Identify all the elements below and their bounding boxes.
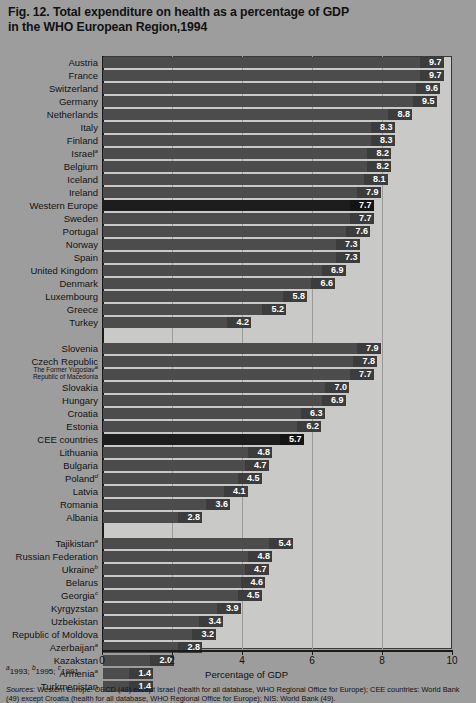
- bar-value: 9.7: [420, 57, 444, 68]
- bar-value: 7.0: [325, 382, 349, 393]
- bar-value: 6.9: [322, 395, 346, 406]
- bar-value: 5.4: [269, 538, 293, 549]
- bar-label: Italy: [81, 121, 98, 134]
- bar-row: Luxembourg5.8: [0, 290, 476, 303]
- bar-row: France9.7: [0, 69, 476, 82]
- bar-value: 4.7: [245, 564, 269, 575]
- bar-row: Austria9.7: [0, 56, 476, 69]
- bar-row: Belarus4.6: [0, 576, 476, 589]
- bar-row: Netherlands8.8: [0, 108, 476, 121]
- bar-value: 4.8: [248, 447, 272, 458]
- bar-value: 8.1: [364, 174, 388, 185]
- bar-row: Ukraineb4.7: [0, 563, 476, 576]
- bar-label: Bulgaria: [63, 459, 98, 472]
- x-tick-label-10: 10: [446, 655, 457, 666]
- bar-value: 5.8: [283, 291, 307, 302]
- bar-row: United Kingdom6.9: [0, 264, 476, 277]
- bar-row: Sweden7.7: [0, 212, 476, 225]
- bar-value: 4.7: [245, 460, 269, 471]
- x-tick-label-8: 8: [379, 655, 385, 666]
- bar: [103, 551, 272, 562]
- bar-row: The Former YugoslavaRepublic of Macedoni…: [0, 368, 476, 381]
- bar: [103, 239, 360, 250]
- bar: [103, 83, 440, 94]
- bar-value: 8.2: [367, 148, 391, 159]
- bar-value: 8.2: [367, 161, 391, 172]
- bar: [103, 447, 272, 458]
- bar-value: 6.6: [311, 278, 335, 289]
- bar: [103, 252, 360, 263]
- bar-label: Romania: [60, 498, 98, 511]
- bar: [103, 421, 321, 432]
- bar-row: Denmark6.6: [0, 277, 476, 290]
- bar-row: Russian Federation4.8: [0, 550, 476, 563]
- bar-label: Israela: [71, 147, 98, 160]
- bar-row: Portugal7.6: [0, 225, 476, 238]
- bar-row: Estonia6.2: [0, 420, 476, 433]
- bar-value: 8.8: [388, 109, 412, 120]
- figure-title-line-1: Fig. 12. Total expenditure on health as …: [8, 5, 349, 19]
- bar-row: Republic of Moldova3.2: [0, 628, 476, 641]
- bar-label: Tajikistana: [55, 537, 98, 550]
- bar-label: France: [68, 69, 98, 82]
- bar-row: Lithuania4.8: [0, 446, 476, 459]
- bar-value: 7.3: [336, 252, 360, 263]
- bar-label: Western Europe: [30, 199, 98, 212]
- bar-value: 5.2: [262, 304, 286, 315]
- bar-row: CEE countries5.7: [0, 433, 476, 446]
- bar-label: The Former YugoslavaRepublic of Macedoni…: [33, 367, 98, 380]
- bar-row: Slovakia7.0: [0, 381, 476, 394]
- bar-label: Croatia: [67, 407, 98, 420]
- bar-label: Ukraineb: [62, 563, 98, 576]
- bar-row: Greece5.2: [0, 303, 476, 316]
- x-axis-label: Percentage of GDP: [205, 669, 288, 680]
- bar-label: Denmark: [59, 277, 98, 290]
- bar: [103, 369, 374, 380]
- bar-value: 9.5: [413, 96, 437, 107]
- footnote-text-a: 1993;: [10, 667, 32, 676]
- bar: [103, 187, 381, 198]
- bar-value: 9.6: [416, 83, 440, 94]
- bar-value: 4.2: [227, 317, 251, 328]
- bar-label: Slovenia: [62, 342, 98, 355]
- bar: [103, 291, 307, 302]
- bar-row: Iceland8.1: [0, 173, 476, 186]
- bar-chart: Austria9.7France9.7Switzerland9.6Germany…: [0, 56, 476, 656]
- bar-value: 4.8: [248, 551, 272, 562]
- bar-row: Hungary6.9: [0, 394, 476, 407]
- bar-label: Polandd: [65, 472, 98, 485]
- bar: [103, 304, 286, 315]
- bar-row: Uzbekistan3.4: [0, 615, 476, 628]
- bar-value: 9.7: [420, 70, 444, 81]
- bar-label: Germany: [59, 95, 98, 108]
- bar-label: Finland: [67, 134, 98, 147]
- bar: [103, 109, 412, 120]
- bar-row: Finland8.3: [0, 134, 476, 147]
- bar-value: 3.6: [206, 499, 230, 510]
- bar: [103, 161, 391, 172]
- bar-value: 4.1: [224, 486, 248, 497]
- bar-label: Belgium: [64, 160, 98, 173]
- sources-note: Sources: Western Europe: OECD (48) excep…: [6, 686, 472, 703]
- bar-value: 3.4: [199, 616, 223, 627]
- bar-row: Slovenia7.9: [0, 342, 476, 355]
- bar-label: Portugal: [63, 225, 98, 238]
- bar-label: Lithuania: [59, 446, 98, 459]
- bar: [103, 408, 325, 419]
- bar-value: 8.3: [371, 122, 395, 133]
- bar-row: Turkey4.2: [0, 316, 476, 329]
- bar-label: Republic of Moldova: [12, 628, 98, 641]
- bar-value: 2.8: [178, 512, 202, 523]
- bar-value: 4.6: [241, 577, 265, 588]
- bar: [103, 96, 437, 107]
- bar-row: Georgiac4.5: [0, 589, 476, 602]
- bar-label: Sweden: [64, 212, 98, 225]
- bar-label: Uzbekistan: [51, 615, 98, 628]
- bar-value: 4.5: [238, 590, 262, 601]
- footnote-text-b: 1995;: [36, 667, 58, 676]
- footnote: a1993; b1995; c1991.: [6, 667, 81, 676]
- bar-label: Albania: [66, 511, 98, 524]
- bar-row: Latvia4.1: [0, 485, 476, 498]
- bar-label: Austria: [68, 56, 98, 69]
- bar-row: Polandd4.5: [0, 472, 476, 485]
